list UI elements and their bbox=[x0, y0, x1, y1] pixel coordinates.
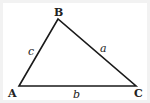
vertex-label-a: A bbox=[7, 87, 17, 100]
side-label-c: c bbox=[28, 45, 34, 58]
vertex-label-c: C bbox=[134, 87, 143, 100]
side-label-a: a bbox=[100, 42, 107, 55]
triangle-diagram: B A C c a b bbox=[0, 0, 150, 103]
triangle-abc bbox=[19, 19, 136, 86]
side-label-b: b bbox=[73, 88, 80, 101]
vertex-label-b: B bbox=[54, 6, 63, 19]
